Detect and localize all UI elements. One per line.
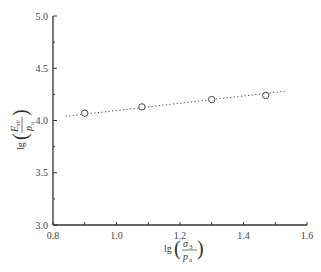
y-axis-label: lg ( E sv p a ) bbox=[9, 109, 36, 150]
svg-text:(: ( bbox=[9, 133, 32, 140]
y-tick-label: 3.5 bbox=[36, 167, 49, 178]
x-axis-label: lg ( σ 3 p a ) bbox=[164, 237, 204, 264]
x-tick-label: 1.4 bbox=[237, 230, 250, 241]
svg-text:(: ( bbox=[174, 237, 181, 260]
svg-text:lg: lg bbox=[15, 142, 26, 150]
y-tick-label: 5.0 bbox=[36, 11, 49, 22]
y-tick-label: 4.5 bbox=[36, 63, 49, 74]
x-tick-label: 0.8 bbox=[47, 230, 60, 241]
svg-text:): ) bbox=[197, 237, 204, 260]
plot-area bbox=[66, 91, 285, 116]
chart: 3.03.54.04.55.00.81.01.21.41.6 lg ( σ 3 … bbox=[0, 0, 321, 272]
svg-text:lg: lg bbox=[164, 243, 172, 254]
axes: 3.03.54.04.55.00.81.01.21.41.6 bbox=[36, 11, 314, 242]
svg-text:): ) bbox=[9, 109, 32, 116]
svg-text:p: p bbox=[182, 251, 188, 262]
data-point bbox=[139, 104, 145, 110]
svg-text:p: p bbox=[23, 126, 34, 132]
svg-text:a: a bbox=[189, 256, 193, 264]
data-point bbox=[82, 110, 88, 116]
fit-line bbox=[66, 91, 285, 116]
x-tick-label: 1.6 bbox=[301, 230, 314, 241]
data-point bbox=[209, 96, 215, 102]
data-point bbox=[263, 92, 269, 98]
y-tick-label: 4.0 bbox=[36, 115, 49, 126]
x-tick-label: 1.0 bbox=[110, 230, 123, 241]
svg-text:sv: sv bbox=[14, 119, 22, 126]
y-tick-label: 3.0 bbox=[36, 220, 49, 231]
